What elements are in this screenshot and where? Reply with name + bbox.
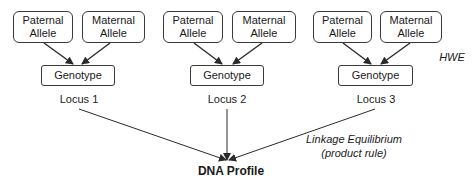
- box-text: Allele: [92, 27, 135, 40]
- box-text: Allele: [243, 27, 286, 40]
- locus-1-label: Locus 1: [60, 93, 99, 106]
- dna-profile-label: DNA Profile: [198, 165, 264, 178]
- locus-2-label: Locus 2: [208, 93, 247, 106]
- box-text: Genotype: [352, 69, 400, 82]
- locus-1-paternal-allele-box: PaternalAllele: [13, 11, 73, 43]
- box-text: Allele: [322, 27, 363, 40]
- locus-3-maternal-allele-box: MaternalAllele: [380, 11, 442, 43]
- locus-3-genotype-box: Genotype: [338, 65, 413, 86]
- dna-profile-diagram: PaternalAllele MaternalAllele Genotype L…: [0, 0, 475, 184]
- locus-3-paternal-allele-box: PaternalAllele: [313, 11, 372, 43]
- linkage-line-2: (product rule): [306, 146, 402, 160]
- hwe-annotation: HWE: [439, 51, 465, 64]
- locus-2-paternal-allele-box: PaternalAllele: [163, 11, 223, 43]
- linkage-equilibrium-annotation: Linkage Equilibrium (product rule): [306, 132, 402, 160]
- box-text: Maternal: [390, 14, 433, 27]
- locus-2-maternal-allele-box: MaternalAllele: [232, 11, 296, 43]
- box-text: Genotype: [54, 69, 102, 82]
- locus-3-label: Locus 3: [357, 93, 396, 106]
- linkage-line-1: Linkage Equilibrium: [306, 132, 402, 146]
- locus-1-maternal-allele-box: MaternalAllele: [82, 11, 145, 43]
- box-text: Allele: [173, 27, 214, 40]
- box-text: Maternal: [243, 14, 286, 27]
- box-text: Allele: [23, 27, 64, 40]
- box-text: Paternal: [23, 14, 64, 27]
- box-text: Allele: [390, 27, 433, 40]
- box-text: Genotype: [203, 69, 251, 82]
- locus-2-genotype-box: Genotype: [190, 65, 264, 86]
- box-text: Maternal: [92, 14, 135, 27]
- box-text: Paternal: [173, 14, 214, 27]
- locus-1-genotype-box: Genotype: [41, 65, 115, 86]
- box-text: Paternal: [322, 14, 363, 27]
